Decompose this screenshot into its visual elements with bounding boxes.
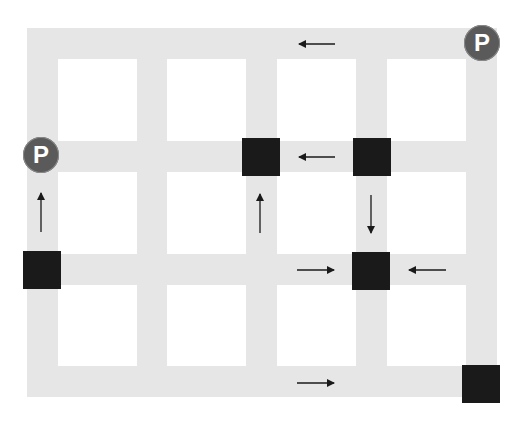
flow-arrows: [0, 0, 519, 423]
street-grid-diagram: P P: [0, 0, 519, 423]
